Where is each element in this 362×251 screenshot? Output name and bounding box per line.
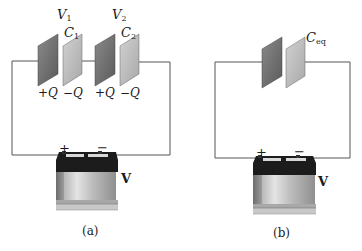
diagram-a xyxy=(12,34,170,210)
battery-positive-terminal: + xyxy=(59,142,70,155)
plate-positive xyxy=(38,34,58,86)
battery-negative-terminal: − xyxy=(97,141,108,154)
plate-negative xyxy=(120,34,139,86)
plate-positive xyxy=(95,34,115,86)
caption-a: (a) xyxy=(82,225,99,237)
caption-b: (b) xyxy=(273,227,290,239)
capacitor-ceq xyxy=(262,37,305,88)
plate-negative xyxy=(63,34,82,86)
battery-negative-terminal: − xyxy=(294,145,305,158)
capacitor-label-c2: C2 xyxy=(121,26,136,41)
charge-label: −Q xyxy=(63,87,83,99)
circuit-wire-b xyxy=(215,62,350,158)
capacitor-c2 xyxy=(95,34,139,86)
capacitor-label-ceq: Ceq xyxy=(306,31,326,46)
battery-voltage-label: V xyxy=(318,175,328,188)
capacitor-label-c1: C1 xyxy=(64,26,79,41)
charge-label: −Q xyxy=(120,87,140,99)
battery-voltage-label: V xyxy=(121,172,131,185)
battery-positive-terminal: + xyxy=(256,146,267,159)
plate-negative xyxy=(286,37,305,88)
diagram-b xyxy=(215,37,350,214)
battery-b xyxy=(253,155,316,214)
capacitor-c1 xyxy=(38,34,82,86)
voltage-label-v1: V1 xyxy=(57,8,71,23)
charge-label: +Q xyxy=(38,87,58,99)
battery-a xyxy=(56,151,118,210)
voltage-label-v2: V2 xyxy=(112,8,126,23)
charge-label: +Q xyxy=(95,87,115,99)
plate-positive xyxy=(262,37,282,88)
circuit-wire-a xyxy=(12,61,170,155)
